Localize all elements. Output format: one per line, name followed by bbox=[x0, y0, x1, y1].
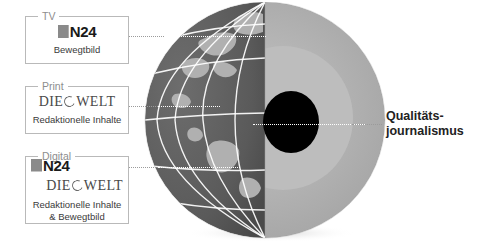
n24-logo-text: N24 bbox=[70, 24, 97, 39]
n24-logo: N24 bbox=[31, 158, 70, 173]
diagram-canvas: TV N24 Bewegtbild Print DIE WELT Redakti… bbox=[0, 0, 489, 244]
cutaway-globe-graphic bbox=[143, 2, 388, 242]
callout-tv[interactable]: TV N24 Bewegtbild bbox=[25, 16, 129, 64]
leader-line-core bbox=[352, 124, 382, 125]
callout-tv-body: N24 Bewegtbild bbox=[26, 17, 128, 63]
callout-tv-description: Bewegtbild bbox=[54, 44, 100, 56]
callout-print-description: Redaktionelle Inhalte bbox=[33, 114, 122, 126]
digital-logo-stack: N24 DIE WELT bbox=[26, 158, 128, 193]
die-welt-logo-welt: WELT bbox=[76, 95, 115, 109]
die-welt-logo-welt: WELT bbox=[84, 179, 123, 193]
die-welt-logo: DIE WELT bbox=[39, 95, 116, 109]
callout-digital-description-line1: Redaktionelle Inhalte bbox=[33, 199, 122, 211]
leader-line-tv bbox=[128, 36, 164, 37]
die-welt-logo-die: DIE bbox=[39, 95, 64, 109]
globe-sphere bbox=[145, 2, 385, 238]
leader-line-tv-over-globe bbox=[164, 36, 266, 37]
welt-globe-icon bbox=[70, 178, 84, 192]
callout-digital[interactable]: Digital N24 DIE WELT Redaktionelle Inhal… bbox=[25, 156, 129, 224]
die-welt-logo-die: DIE bbox=[46, 179, 71, 193]
n24-mark-icon bbox=[31, 159, 42, 172]
n24-logo-text: N24 bbox=[43, 158, 70, 173]
outer-sphere-surface bbox=[145, 2, 265, 238]
leader-line-digital bbox=[128, 167, 158, 168]
leader-line-digital-over-globe bbox=[158, 167, 240, 168]
callout-print-body: DIE WELT Redaktionelle Inhalte bbox=[26, 87, 128, 133]
n24-logo: N24 bbox=[58, 24, 97, 39]
leader-line-core-over-globe bbox=[253, 124, 365, 125]
leader-line-print bbox=[128, 106, 158, 107]
qualitaetsjournalismus-line2: journalismus bbox=[386, 124, 464, 139]
callout-print[interactable]: Print DIE WELT Redaktionelle Inhalte bbox=[25, 86, 129, 134]
leader-line-print-over-globe bbox=[158, 106, 220, 107]
welt-globe-icon bbox=[63, 94, 77, 108]
callout-digital-body: N24 DIE WELT Redaktionelle Inhalte & Bew… bbox=[26, 157, 128, 223]
core bbox=[263, 91, 319, 153]
die-welt-logo: DIE WELT bbox=[46, 179, 123, 193]
qualitaetsjournalismus-line1: Qualitäts- bbox=[386, 109, 464, 124]
qualitaetsjournalismus-label: Qualitäts- journalismus bbox=[386, 109, 464, 139]
callout-digital-description-line2: & Bewegtbild bbox=[49, 211, 104, 223]
n24-mark-icon bbox=[58, 25, 69, 38]
